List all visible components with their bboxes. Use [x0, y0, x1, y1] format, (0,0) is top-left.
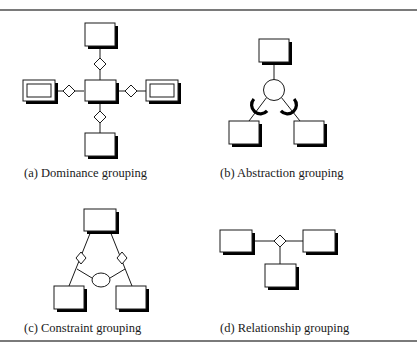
- relationship-diamond: [94, 58, 106, 70]
- constraint-ellipse: [92, 273, 110, 287]
- entity-box: [259, 39, 292, 65]
- entity-box: [116, 286, 149, 312]
- relationship-diamond: [76, 252, 86, 264]
- entity-box: [294, 121, 327, 147]
- entity-box: [265, 264, 299, 290]
- panel-c-constraint-diagram: [54, 209, 149, 312]
- entity-box: [220, 230, 255, 255]
- abstraction-circle: [264, 80, 285, 101]
- entity-box: [85, 133, 118, 159]
- relationship-diamond: [274, 235, 286, 247]
- panel-b-abstraction-diagram: [229, 39, 327, 147]
- caption-dominance-grouping: (a) Dominance grouping: [24, 166, 147, 181]
- panel-d-relationship-diagram: [220, 230, 338, 290]
- relationship-diamond: [125, 85, 137, 97]
- caption-constraint-grouping: (c) Constraint grouping: [24, 321, 141, 336]
- entity-box: [303, 230, 338, 255]
- entity-box: [85, 23, 118, 49]
- relationship-diamond: [117, 252, 127, 264]
- entity-box: [54, 286, 87, 312]
- entity-box: [229, 121, 262, 147]
- caption-abstraction-grouping: (b) Abstraction grouping: [220, 166, 344, 181]
- entity-box: [85, 80, 119, 104]
- weak-entity-box: [146, 80, 181, 104]
- relationship-diamond: [63, 85, 75, 97]
- panel-a-dominance-diagram: [23, 23, 181, 159]
- caption-relationship-grouping: (d) Relationship grouping: [220, 321, 349, 336]
- entity-box: [84, 209, 119, 234]
- weak-entity-box: [23, 80, 58, 104]
- relationship-diamond: [94, 111, 106, 123]
